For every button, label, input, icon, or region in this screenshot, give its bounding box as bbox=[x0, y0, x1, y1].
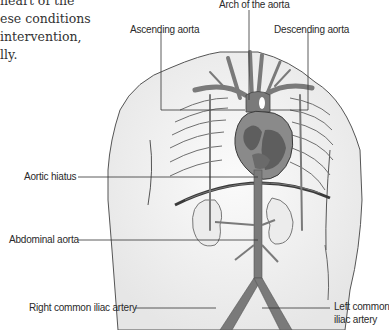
label-arch: Arch of the aorta bbox=[219, 0, 290, 10]
label-left-iliac-line2: iliac artery bbox=[334, 314, 377, 325]
aorta bbox=[254, 170, 262, 280]
label-hiatus: Aortic hiatus bbox=[24, 171, 76, 182]
label-ascending: Ascending aorta bbox=[130, 24, 199, 35]
torso-outline bbox=[108, 52, 362, 330]
label-right-iliac: Right common iliac artery bbox=[29, 302, 137, 313]
label-abdominal: Abdominal aorta bbox=[9, 234, 79, 245]
label-descending: Descending aorta bbox=[274, 24, 349, 35]
aorta-diagram: heart of the ese conditions intervention… bbox=[0, 0, 389, 330]
label-left-iliac-line1: Left common bbox=[334, 301, 389, 312]
anatomy-illustration bbox=[0, 0, 389, 330]
